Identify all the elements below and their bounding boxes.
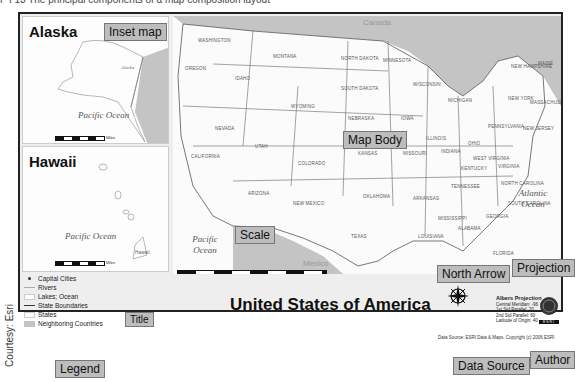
- legend-item: Capital Cities: [24, 274, 103, 283]
- state-label: NEW JERSEY: [523, 126, 554, 131]
- legend-swatch: [24, 312, 35, 318]
- legend-swatch: [24, 321, 35, 327]
- legend-item: State Boundaries: [24, 301, 103, 310]
- callout-data-source: Data Source: [453, 357, 530, 375]
- esri-logo: ESRI: [539, 296, 559, 324]
- compass-rose-icon: [445, 283, 471, 309]
- state-label: MINNESOTA: [383, 58, 411, 63]
- alaska-scale-unit: Miles: [106, 135, 115, 140]
- legend-item: Rivers: [24, 283, 103, 292]
- legend-item: Neighboring Countries: [24, 319, 103, 328]
- state-label: LOUISIANA: [418, 234, 444, 239]
- state-label: COLORADO: [298, 161, 325, 166]
- legend-item: States: [24, 310, 103, 319]
- state-label: UTAH: [255, 144, 268, 149]
- canada-label: Canada: [363, 18, 391, 27]
- legend-label: Neighboring Countries: [38, 320, 103, 327]
- hawaii-ocean-label: Pacific Ocean: [65, 231, 116, 242]
- alaska-scale-bar: [55, 136, 105, 141]
- state-label: IDAHO: [235, 76, 250, 81]
- state-label: FLORIDA: [493, 251, 514, 256]
- state-label: KANSAS: [358, 151, 377, 156]
- callout-legend: Legend: [55, 360, 105, 378]
- state-label: OKLAHOMA: [363, 194, 390, 199]
- callout-scale: Scale: [235, 226, 275, 244]
- state-label: ILLINOIS: [426, 136, 446, 141]
- atlantic-ocean-label: Atlantic Ocean: [513, 188, 553, 210]
- alaska-ocean-label: Pacific Ocean: [78, 110, 129, 121]
- hawaii-scale-unit: Miles: [106, 260, 115, 265]
- callout-author: Author: [530, 351, 575, 369]
- state-label: MASSACHUSETTS: [530, 100, 561, 105]
- projection-name: Albers Projection: [496, 295, 542, 301]
- legend-swatch: [24, 305, 35, 306]
- state-label: NEW HAMPSHIRE: [511, 64, 552, 69]
- data-source-text: Data Source: ESRI Data & Maps. Copyright…: [438, 335, 555, 340]
- legend-swatch: [24, 287, 35, 288]
- callout-north-arrow: North Arrow: [437, 265, 510, 283]
- state-label: INDIANA: [441, 149, 461, 154]
- state-label: MISSISSIPPI: [438, 216, 467, 221]
- main-scale-bar: [177, 270, 327, 274]
- state-label: MISSOURI: [403, 151, 427, 156]
- map-title: United States of America: [230, 295, 431, 315]
- state-label: ARIZONA: [248, 191, 269, 196]
- projection-line: Latitude of Origin: 40: [496, 318, 542, 324]
- hawaii-inset-map: Hawaii Pacific Ocean Hawaii Miles: [22, 146, 169, 272]
- mexico-label: Mexico: [303, 259, 328, 268]
- state-label: MICHIGAN: [448, 98, 472, 103]
- state-label: TEXAS: [351, 234, 367, 239]
- state-label: NEVADA: [215, 126, 234, 131]
- state-label: PENNSYLVANIA: [488, 124, 524, 129]
- state-label: GEORGIA: [486, 214, 508, 219]
- callout-title: Title: [125, 312, 154, 327]
- legend-swatch: [28, 277, 31, 280]
- state-label: WASHINGTON: [198, 38, 231, 43]
- hawaii-title: Hawaii: [29, 153, 77, 170]
- hawaii-scale-bar: [55, 261, 105, 266]
- state-label: TENNESSEE: [451, 184, 480, 189]
- state-label: WISCONSIN: [413, 82, 441, 87]
- legend-swatch: [24, 294, 35, 300]
- legend-label: State Boundaries: [38, 302, 88, 309]
- legend-item: Lakes; Ocean: [24, 292, 103, 301]
- callout-inset-map: Inset map: [104, 23, 167, 41]
- state-label: VIRGINIA: [498, 164, 519, 169]
- hawaii-place-label: Hawaii: [135, 250, 150, 255]
- state-label: NORTH DAKOTA: [341, 56, 379, 61]
- globe-icon: [539, 296, 559, 316]
- legend-label: Rivers: [38, 284, 56, 291]
- state-label: WYOMING: [291, 104, 315, 109]
- state-label: KENTUCKY: [461, 166, 487, 171]
- courtesy-credit: Courtesy: Esri: [4, 304, 15, 367]
- state-label: OHIO: [468, 141, 480, 146]
- legend-label: Lakes; Ocean: [38, 293, 78, 300]
- legend: Capital CitiesRiversLakes; OceanState Bo…: [24, 274, 103, 328]
- legend-label: States: [38, 311, 56, 318]
- pacific-ocean-label: Pacific Ocean: [185, 234, 225, 256]
- state-label: MONTANA: [273, 54, 297, 59]
- state-label: OREGON: [185, 66, 206, 71]
- state-label: CALIFORNIA: [191, 154, 220, 159]
- callout-projection: Projection: [512, 259, 575, 277]
- callout-map-body: Map Body: [343, 131, 407, 149]
- state-label: NEBRASKA: [348, 116, 374, 121]
- state-label: ALABAMA: [458, 226, 481, 231]
- state-label: NEW MEXICO: [293, 201, 325, 206]
- state-label: ARKANSAS: [413, 196, 439, 201]
- state-label: WEST VIRGINIA: [473, 156, 510, 161]
- projection-info: Albers Projection Central Meridian: -96 …: [496, 296, 542, 324]
- esri-logo-text: ESRI: [539, 320, 559, 324]
- north-arrow: [445, 283, 471, 309]
- legend-label: Capital Cities: [38, 275, 76, 282]
- alaska-place-label: Alaska: [121, 65, 134, 70]
- state-label: SOUTH CAROLINA: [508, 201, 551, 206]
- state-label: SOUTH DAKOTA: [341, 86, 379, 91]
- state-label: IOWA: [401, 116, 414, 121]
- figure-caption: F I 13 The principal components of a map…: [0, 0, 270, 5]
- state-label: NORTH CAROLINA: [501, 181, 544, 186]
- alaska-title: Alaska: [29, 23, 77, 40]
